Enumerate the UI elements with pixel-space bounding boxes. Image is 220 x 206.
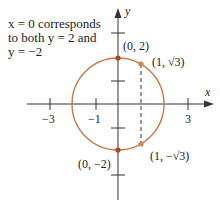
- point-label-0-neg2: (0, −2): [78, 158, 111, 170]
- x-tick-label--1: −1: [88, 113, 101, 125]
- point-1-sqrt3: [138, 61, 143, 66]
- point-label-0-2: (0, 2): [123, 40, 149, 52]
- point-label-1-negsqrt3: (1, −√3): [150, 150, 189, 162]
- x-axis-arrow-icon: [204, 101, 214, 108]
- y-axis-label: y: [125, 5, 130, 17]
- point-label-1-sqrt3: (1, √3): [152, 56, 185, 68]
- annotation-line-3: y = −2: [8, 45, 118, 59]
- annotation-note: x = 0 corresponds to both y = 2 and y = …: [8, 17, 118, 59]
- annotation-line-1: x = 0 corresponds: [8, 17, 118, 31]
- x-axis-label: x: [205, 86, 210, 98]
- x-tick-label-3: 3: [185, 113, 191, 125]
- point-0-neg2: [115, 147, 120, 152]
- circle-diagram: x = 0 corresponds to both y = 2 and y = …: [0, 0, 220, 206]
- annotation-line-2: to both y = 2 and: [8, 31, 118, 45]
- point-1-negsqrt3: [138, 141, 143, 146]
- x-tick-label--3: −3: [42, 113, 55, 125]
